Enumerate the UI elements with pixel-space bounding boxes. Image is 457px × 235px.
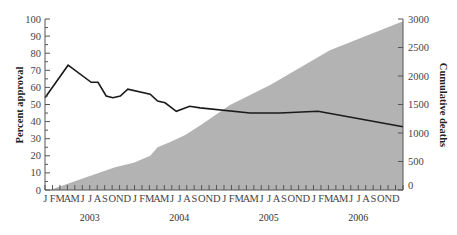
month-label: A [273,193,281,204]
month-label: S [191,193,197,204]
year-label: 2005 [259,212,279,223]
left-tick-label: 50 [31,99,42,110]
month-label: D [302,193,310,204]
month-label: A [362,193,370,204]
month-label: D [213,193,221,204]
month-label: J [312,193,316,204]
month-label: J [80,193,84,204]
left-axis-title: Percent approval [14,66,25,143]
month-label: J [133,193,137,204]
right-tick-label: 1000 [408,128,429,139]
x-axis: JFMAMJJASONDJFMAMJJASONDJFMAMJJASONDJFMA… [43,185,403,223]
month-label: M [70,193,80,204]
month-label: D [123,193,131,204]
right-tick-label: 2500 [408,42,429,53]
left-tick-label: 10 [31,167,42,178]
month-label: J [259,193,263,204]
month-label: A [183,193,191,204]
month-label: J [170,193,174,204]
left-tick-label: 70 [31,65,42,76]
month-label: J [349,193,353,204]
year-label: 2003 [80,212,100,223]
right-tick-label: 3000 [408,14,429,25]
left-y-axis: 0102030405060708090100 [25,14,50,196]
year-label: 2004 [169,212,189,223]
approval-deaths-chart: 0102030405060708090100 05001000150020002… [0,0,457,235]
cumulative-deaths-area [50,21,403,190]
right-y-axis: 050010001500200025003000 [398,14,429,192]
left-tick-label: 20 [31,150,42,161]
left-tick-label: 60 [31,82,42,93]
month-label: M [339,193,349,204]
deaths-area-fill [50,21,403,190]
month-label: S [102,193,108,204]
month-label: D [392,193,400,204]
left-tick-label: 30 [31,133,42,144]
month-label: J [43,193,47,204]
right-axis-title: Cumulative deaths [438,63,449,147]
month-label: M [249,193,259,204]
month-label: A [94,193,102,204]
left-tick-label: 100 [25,14,41,25]
left-tick-label: 80 [31,48,42,59]
month-label: J [267,193,271,204]
year-label: 2006 [348,212,368,223]
left-tick-label: 40 [31,116,42,127]
left-tick-label: 90 [31,31,42,42]
month-label: J [356,193,360,204]
month-label: S [370,193,376,204]
right-tick-label: 500 [408,156,424,167]
month-label: J [177,193,181,204]
left-tick-label: 0 [36,185,41,196]
right-tick-label: 0 [408,180,413,191]
right-tick-label: 2000 [408,71,429,82]
month-label: J [88,193,92,204]
month-label: J [222,193,226,204]
right-tick-label: 1500 [408,99,429,110]
month-label: M [160,193,170,204]
month-label: S [281,193,287,204]
